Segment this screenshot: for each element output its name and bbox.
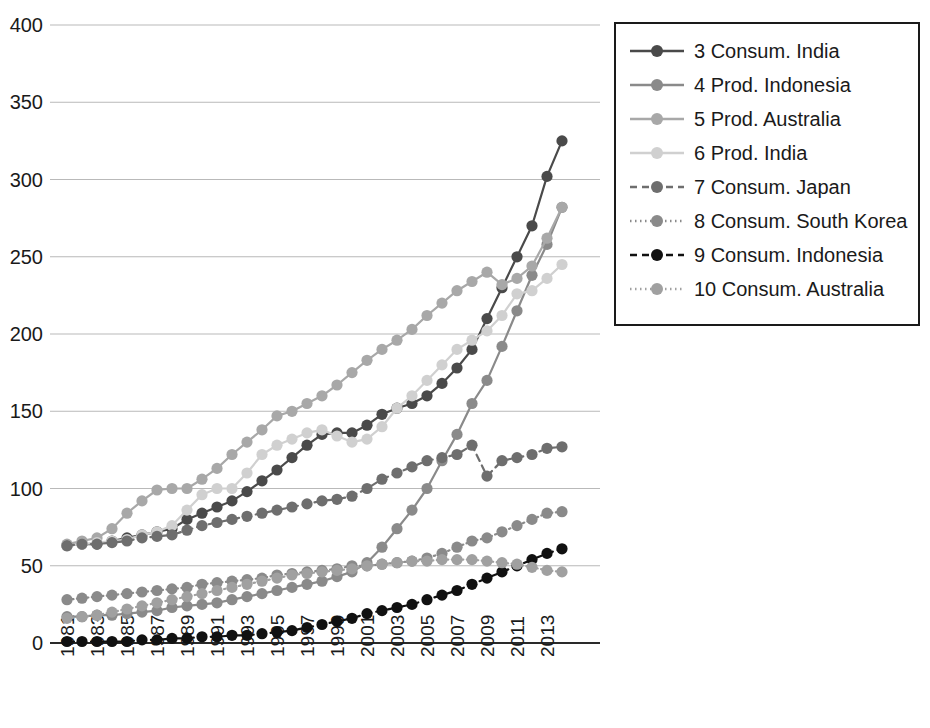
data-point: [196, 520, 207, 531]
data-point: [421, 594, 432, 605]
data-point: [346, 491, 357, 502]
data-point: [466, 276, 477, 287]
data-point: [376, 474, 387, 485]
data-point: [436, 359, 447, 370]
data-point: [91, 610, 102, 621]
data-point: [241, 579, 252, 590]
data-point: [556, 543, 567, 554]
data-point: [406, 599, 417, 610]
data-point: [541, 565, 552, 576]
data-point: [301, 427, 312, 438]
data-point: [196, 474, 207, 485]
legend-item-7[interactable]: 10 Consum. Australia: [628, 272, 910, 306]
data-point: [136, 586, 147, 597]
legend-label: 4 Prod. Indonesia: [686, 74, 851, 97]
legend-label: 5 Prod. Australia: [686, 108, 841, 131]
data-point: [346, 613, 357, 624]
data-point: [451, 285, 462, 296]
data-point: [406, 324, 417, 335]
data-point: [436, 452, 447, 463]
y-axis-tick-label: 100: [10, 478, 43, 500]
data-point: [121, 636, 132, 647]
y-axis-tick-label: 150: [10, 400, 43, 422]
data-point: [271, 627, 282, 638]
data-point: [496, 526, 507, 537]
x-axis-tick-label: 2005: [417, 615, 438, 657]
data-point: [106, 523, 117, 534]
data-point: [181, 591, 192, 602]
data-point: [61, 540, 72, 551]
data-point: [121, 588, 132, 599]
x-axis-tick-label: 2013: [537, 615, 558, 657]
data-point: [316, 390, 327, 401]
data-point: [241, 437, 252, 448]
y-axis-tick-label: 200: [10, 323, 43, 345]
data-point: [271, 505, 282, 516]
data-point: [331, 494, 342, 505]
data-point: [226, 483, 237, 494]
x-axis-tick-label: 2007: [447, 615, 468, 657]
data-point: [376, 344, 387, 355]
data-point: [181, 483, 192, 494]
data-point: [391, 602, 402, 613]
data-point: [316, 566, 327, 577]
data-point: [451, 429, 462, 440]
data-point: [316, 495, 327, 506]
data-point: [91, 539, 102, 550]
data-point: [286, 582, 297, 593]
data-point: [136, 634, 147, 645]
data-point: [301, 568, 312, 579]
legend-item-6[interactable]: 9 Consum. Indonesia: [628, 238, 910, 272]
data-point: [106, 636, 117, 647]
data-point: [496, 310, 507, 321]
data-point: [376, 542, 387, 553]
legend-label: 3 Consum. India: [686, 40, 840, 63]
legend-marker-icon: [628, 177, 686, 197]
data-point: [91, 636, 102, 647]
data-point: [541, 508, 552, 519]
data-point: [61, 613, 72, 624]
data-point: [196, 599, 207, 610]
data-point: [91, 591, 102, 602]
legend-item-3[interactable]: 6 Prod. India: [628, 136, 910, 170]
legend-item-5[interactable]: 8 Consum. South Korea: [628, 204, 910, 238]
data-point: [466, 535, 477, 546]
data-point: [121, 508, 132, 519]
data-point: [76, 611, 87, 622]
legend-label: 8 Consum. South Korea: [686, 210, 907, 233]
data-point: [61, 594, 72, 605]
legend-item-0[interactable]: 3 Consum. India: [628, 34, 910, 68]
data-point: [331, 379, 342, 390]
legend-item-1[interactable]: 4 Prod. Indonesia: [628, 68, 910, 102]
data-point: [241, 486, 252, 497]
data-point: [466, 554, 477, 565]
data-point: [76, 636, 87, 647]
data-point: [391, 335, 402, 346]
data-point: [406, 505, 417, 516]
x-axis-tick-label: 2001: [357, 615, 378, 657]
data-point: [406, 461, 417, 472]
data-point: [451, 542, 462, 553]
data-point: [106, 537, 117, 548]
y-axis-tick-label: 250: [10, 246, 43, 268]
data-point: [256, 628, 267, 639]
data-point: [301, 440, 312, 451]
legend-item-2[interactable]: 5 Prod. Australia: [628, 102, 910, 136]
data-point: [376, 559, 387, 570]
data-point: [121, 535, 132, 546]
data-point: [526, 449, 537, 460]
legend-item-4[interactable]: 7 Consum. Japan: [628, 170, 910, 204]
data-point: [151, 634, 162, 645]
data-point: [271, 573, 282, 584]
data-point: [76, 593, 87, 604]
data-point: [541, 233, 552, 244]
legend-marker-icon: [628, 211, 686, 231]
data-point: [286, 452, 297, 463]
data-point: [481, 532, 492, 543]
data-point: [256, 424, 267, 435]
data-point: [421, 483, 432, 494]
data-point: [391, 467, 402, 478]
data-point: [151, 484, 162, 495]
data-point: [451, 585, 462, 596]
data-point: [466, 440, 477, 451]
